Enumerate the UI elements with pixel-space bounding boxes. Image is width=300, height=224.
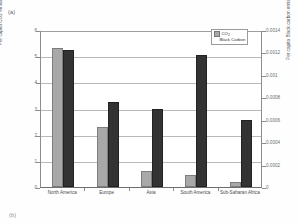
bar-group — [52, 48, 74, 187]
y-tick-mark-right — [262, 166, 266, 167]
y-tick-mark-left — [36, 188, 40, 189]
x-tick-mark — [173, 188, 174, 191]
y-tick-mark-right — [262, 121, 266, 122]
y-tick-mark-right — [262, 188, 266, 189]
legend-swatch-black_carbon — [214, 38, 218, 42]
y-tick-label-right: 0.0014 — [266, 28, 298, 33]
bar-co2 — [230, 182, 241, 187]
legend-item: Black Carbon — [214, 38, 245, 42]
y-tick-label-right: 0 — [266, 185, 298, 190]
panel-b-label: (b) — [9, 212, 16, 218]
y-axis-label-left: Per capita CO2 emissions (tons C per per… — [0, 0, 3, 48]
y-tick-mark-right — [262, 98, 266, 99]
bar-black-carbon — [196, 55, 207, 187]
bar-black-carbon — [63, 50, 74, 187]
y-tick-label-right: 0.0002 — [266, 163, 298, 168]
y-tick-label-right: 0.0008 — [266, 96, 298, 101]
panel-a-label: (a) — [8, 9, 15, 15]
x-tick-label: North America — [48, 190, 77, 195]
bar-co2 — [97, 127, 108, 187]
x-tick-label: Europe — [99, 190, 114, 195]
x-tick-mark — [84, 188, 85, 191]
bar-co2 — [185, 175, 196, 187]
x-tick-label: South America — [180, 190, 210, 195]
bar-black-carbon — [152, 109, 163, 188]
bar-group — [141, 109, 163, 188]
bar-black-carbon — [241, 120, 252, 187]
legend-label: CO2 — [222, 32, 230, 36]
bar-co2 — [141, 171, 152, 187]
bar-co2 — [52, 48, 63, 187]
chart-legend: CO2Black Carbon — [211, 29, 248, 45]
y-tick-label-right: 0.0006 — [266, 118, 298, 123]
x-tick-mark — [218, 188, 219, 191]
y-tick-mark-right — [262, 143, 266, 144]
x-tick-mark — [129, 188, 130, 191]
y-tick-label-right: 0.001 — [266, 73, 298, 78]
y-tick-mark-right — [262, 76, 266, 77]
y-tick-mark-right — [262, 31, 266, 32]
legend-label: Black Carbon — [220, 38, 246, 42]
plot-area — [40, 31, 262, 188]
bar-group — [97, 102, 119, 187]
y-tick-label-right: 0.0004 — [266, 141, 298, 146]
bar-group — [185, 55, 207, 187]
y-tick-mark-right — [262, 53, 266, 54]
y-tick-label-right: 0.0012 — [266, 51, 298, 56]
x-tick-label: Sub-Saharan Africa — [220, 190, 260, 195]
x-tick-label: Asia — [147, 190, 156, 195]
bar-black-carbon — [108, 102, 119, 187]
figure-panel-a: (a) (b) Per capita CO2 emissions (tons C… — [0, 0, 300, 224]
bar-group — [230, 120, 252, 187]
